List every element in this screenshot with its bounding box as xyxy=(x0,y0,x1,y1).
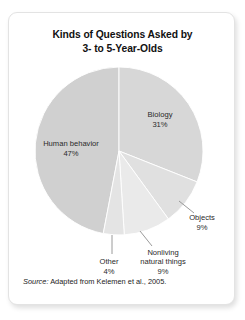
source-note: Source: Adapted from Kelemen et al., 200… xyxy=(23,277,228,287)
pie-label-nonliving-natural-things-name-line-2: natural things xyxy=(125,257,201,266)
pie-label-nonliving-natural-things-name-line-1: Nonliving xyxy=(125,248,201,257)
pie-label-biology-value: 31% xyxy=(125,120,195,130)
pie-label-human-behavior-value: 47% xyxy=(19,149,123,159)
pie-label-objects: Objects 9% xyxy=(169,213,235,232)
figure-card: Kinds of Questions Asked by 3- to 5-Year… xyxy=(8,12,235,305)
source-citation-text: Adapted from Kelemen et al., 2005. xyxy=(48,277,166,286)
pie-label-other-name: Other xyxy=(87,257,131,267)
pie-label-human-behavior-name: Human behavior xyxy=(19,139,123,149)
pie-label-human-behavior: Human behavior 47% xyxy=(19,139,123,158)
pie-label-objects-name: Objects xyxy=(169,213,235,223)
pie-label-biology-name: Biology xyxy=(125,110,195,120)
pie-label-other: Other 4% xyxy=(87,257,131,276)
pie-label-nonliving-natural-things: Nonliving natural things 9% xyxy=(125,248,201,276)
pie-label-biology: Biology 31% xyxy=(125,110,195,129)
pie-chart: Human behavior 47% Biology 31% Objects 9… xyxy=(9,13,235,305)
pie-label-other-value: 4% xyxy=(87,267,131,277)
pie-label-nonliving-natural-things-value: 9% xyxy=(125,267,201,276)
source-label: Source: xyxy=(23,277,48,286)
pie-label-objects-value: 9% xyxy=(169,223,235,233)
leader-line-nonliving-natural-things xyxy=(140,231,152,246)
